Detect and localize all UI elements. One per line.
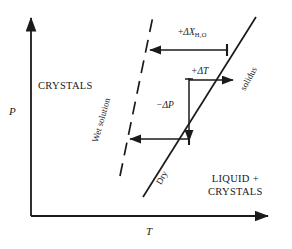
phase-diagram-figure: P T CRYSTALS LIQUID + CRYSTALS Wet solut…	[0, 0, 292, 249]
annotation-delta-x-h2o-subscript: H₂O	[195, 31, 207, 38]
temperature-axis-label: T	[146, 225, 152, 238]
region-label-liquid-crystals: LIQUID + CRYSTALS	[208, 172, 263, 198]
wet-solution-curve	[120, 16, 153, 176]
region-label-crystals: CRYSTALS	[38, 80, 93, 92]
region-label-liquid-crystals-line2: CRYSTALS	[208, 185, 263, 198]
diagram-canvas	[0, 0, 292, 249]
annotation-delta-p: −ΔP	[156, 100, 174, 111]
annotation-delta-x-h2o-symbol: ΔX	[183, 27, 194, 37]
region-label-liquid-crystals-line1: LIQUID +	[208, 172, 263, 185]
annotation-delta-t: +ΔT	[191, 66, 208, 77]
annotation-delta-x-h2o: +ΔXH₂O	[178, 27, 206, 38]
pressure-axis-label: P	[9, 105, 16, 118]
